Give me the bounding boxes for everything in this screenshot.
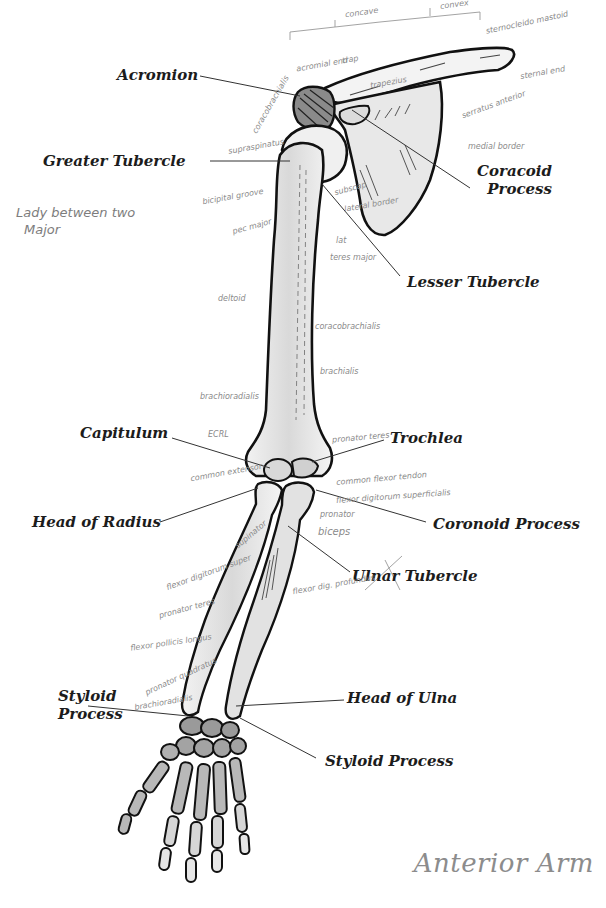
label-coronoid-process: Coronoid Process: [433, 515, 580, 533]
note-mnemonic-line1: Lady between two: [16, 205, 135, 221]
diagram-title: Anterior Arm: [414, 848, 594, 878]
label-coracoid-line2: Process: [470, 180, 552, 198]
note-teres-major: teres major: [330, 253, 376, 262]
carpal-bones: [161, 717, 246, 760]
note-coracobrachialis: coracobrachialis: [315, 322, 380, 331]
note-mnemonic-line2: Major: [24, 222, 60, 238]
arm-skeleton-illustration: [0, 0, 606, 908]
label-styloid-process-ulna: Styloid Process: [325, 752, 453, 770]
label-coracoid-process: Coracoid Process: [470, 162, 552, 198]
anatomy-diagram: Acromion Greater Tubercle Coracoid Proce…: [0, 0, 606, 908]
label-styloid-line1: Styloid: [58, 687, 123, 705]
label-coracoid-line1: Coracoid: [470, 162, 552, 180]
phalanges: [118, 757, 250, 882]
label-acromion: Acromion: [117, 66, 198, 84]
note-biceps: biceps: [318, 527, 350, 536]
note-ecrl: ECRL: [208, 430, 229, 439]
note-pronator: pronator: [320, 510, 355, 519]
label-greater-tubercle: Greater Tubercle: [43, 152, 186, 170]
label-head-of-ulna: Head of Ulna: [347, 689, 457, 707]
note-brachialis: brachialis: [320, 367, 358, 376]
capitulum-bone: [264, 459, 292, 481]
label-trochlea: Trochlea: [390, 429, 463, 447]
note-lat: lat: [336, 236, 346, 245]
label-head-of-radius: Head of Radius: [32, 513, 161, 531]
label-capitulum: Capitulum: [80, 424, 168, 442]
note-brachioradialis: brachioradialis: [200, 392, 259, 401]
note-medial-border: medial border: [468, 142, 524, 151]
label-lesser-tubercle: Lesser Tubercle: [407, 273, 540, 291]
label-styloid-process-radius: Styloid Process: [58, 687, 123, 723]
label-styloid-line2: Process: [58, 705, 123, 723]
note-deltoid: deltoid: [218, 294, 246, 303]
